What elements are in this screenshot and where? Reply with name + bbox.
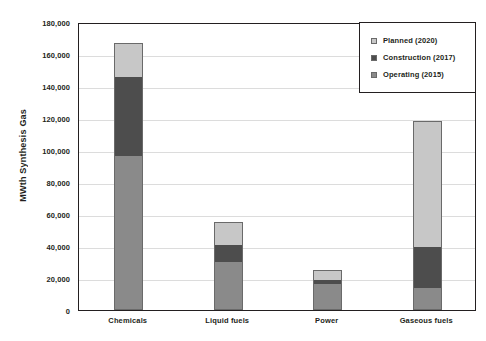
legend-item-label: Operating (2015)	[383, 70, 444, 79]
y-axis-tick-label: 140,000	[42, 83, 70, 92]
bar-segment	[214, 222, 243, 245]
legend-item-label: Construction (2017)	[383, 53, 455, 62]
legend-swatch-icon	[371, 72, 377, 78]
stacked-bar-chart: MWth Synthesis Gas 180,000160,000140,000…	[0, 0, 486, 341]
legend-item[interactable]: Operating (2015)	[360, 66, 475, 83]
y-axis-tick-label: 40,000	[46, 243, 70, 252]
bar-segment	[413, 247, 442, 289]
y-axis-title-text: MWth Synthesis Gas	[18, 109, 28, 202]
x-axis-tick-label: Liquid fuels	[205, 316, 249, 325]
x-axis-tick-label: Chemicals	[108, 316, 147, 325]
legend-swatch-icon	[371, 55, 377, 61]
bar-group	[413, 121, 442, 310]
legend-item[interactable]: Construction (2017)	[360, 49, 475, 66]
y-axis-tick-labels: 180,000160,000140,000120,000100,00080,00…	[30, 23, 74, 311]
bar-segment	[413, 288, 442, 310]
bar-segment	[114, 156, 143, 310]
bar-group	[313, 270, 342, 310]
bar-segment	[313, 284, 342, 310]
y-axis-tick-label: 20,000	[46, 275, 70, 284]
x-axis-tick-label: Power	[315, 316, 338, 325]
y-axis-tick-label: 60,000	[46, 211, 70, 220]
y-axis-tick-label: 100,000	[42, 147, 70, 156]
chart-legend: Planned (2020)Construction (2017)Operati…	[359, 22, 476, 93]
legend-item-label: Planned (2020)	[383, 36, 437, 45]
bar-group	[114, 43, 143, 310]
y-axis-tick-label: 0	[66, 307, 70, 316]
bar-segment	[214, 245, 243, 262]
legend-item[interactable]: Planned (2020)	[360, 32, 475, 49]
legend-swatch-icon	[371, 38, 377, 44]
y-axis-tick-label: 80,000	[46, 179, 70, 188]
x-axis-tick-label: Gaseous fuels	[400, 316, 453, 325]
bar-segment	[114, 77, 143, 155]
bar-group	[214, 222, 243, 310]
y-axis-tick-label: 160,000	[42, 51, 70, 60]
y-axis-tick-label: 120,000	[42, 115, 70, 124]
y-axis-tick-label: 180,000	[42, 19, 70, 28]
bar-segment	[114, 43, 143, 77]
bar-segment	[313, 270, 342, 280]
bar-segment	[413, 121, 442, 247]
x-axis-tick-labels: ChemicalsLiquid fuelsPowerGaseous fuels	[78, 316, 476, 336]
bar-segment	[214, 262, 243, 310]
